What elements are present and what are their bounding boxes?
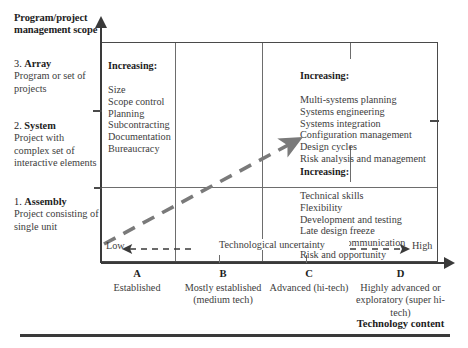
category-column-c: C Advanced (hi-tech) bbox=[264, 268, 354, 294]
scope-level-system-number: 2. bbox=[14, 120, 22, 131]
scope-level-array-name: Array bbox=[24, 58, 51, 69]
scope-level-assembly: 1. Assembly Project consisting of single… bbox=[14, 196, 102, 233]
scope-level-array-description: Program or set of projects bbox=[14, 70, 86, 93]
uncertainty-high-label: High bbox=[412, 240, 432, 251]
category-a-letter: A bbox=[92, 268, 182, 281]
x-axis-title: Technology content bbox=[348, 318, 453, 329]
category-d-description: Highly advanced or exploratory (super hi… bbox=[356, 282, 445, 318]
category-b-description: Mostly established (medium tech) bbox=[185, 282, 262, 306]
scope-level-assembly-description: Project consisting of single unit bbox=[14, 208, 99, 231]
category-d-letter: D bbox=[348, 268, 453, 281]
scope-level-system-description: Project with complex set of interactive … bbox=[14, 132, 97, 168]
scope-level-array-number: 3. bbox=[14, 58, 22, 69]
scope-level-system-name: System bbox=[24, 120, 55, 131]
scope-level-array: 3. Array Program or set of projects bbox=[14, 58, 102, 95]
technical-increasing-header: Increasing: bbox=[300, 166, 440, 178]
y-axis-title: Program/project management scope bbox=[14, 12, 100, 37]
category-column-a: A Established bbox=[92, 268, 182, 294]
systems-increasing-box: Increasing: Multi-systems planning Syste… bbox=[300, 58, 440, 165]
tick-mark-left-upper bbox=[93, 110, 102, 112]
x-axis-line bbox=[101, 262, 447, 264]
systems-increasing-header: Increasing: bbox=[300, 70, 440, 82]
trend-arrow-icon bbox=[98, 130, 313, 250]
category-column-d: D Highly advanced or exploratory (super … bbox=[348, 268, 453, 319]
uncertainty-low-label: Low bbox=[106, 240, 125, 251]
scope-level-assembly-name: Assembly bbox=[24, 196, 66, 207]
tick-mark-column-d-top bbox=[350, 43, 351, 59]
category-a-description: Established bbox=[114, 282, 161, 293]
category-c-description: Advanced (hi-tech) bbox=[270, 282, 349, 293]
category-b-letter: B bbox=[178, 268, 268, 281]
y-axis-arrow-icon bbox=[95, 16, 107, 28]
scope-level-system: 2. System Project with complex set of in… bbox=[14, 120, 102, 169]
scope-increasing-header: Increasing: bbox=[108, 60, 178, 72]
bottom-rule-divider bbox=[20, 334, 450, 337]
category-c-letter: C bbox=[264, 268, 354, 281]
uncertainty-axis-label: Technological uncertainty bbox=[195, 239, 349, 250]
scope-level-assembly-number: 1. bbox=[14, 196, 22, 207]
category-column-b: B Mostly established (medium tech) bbox=[178, 268, 268, 307]
